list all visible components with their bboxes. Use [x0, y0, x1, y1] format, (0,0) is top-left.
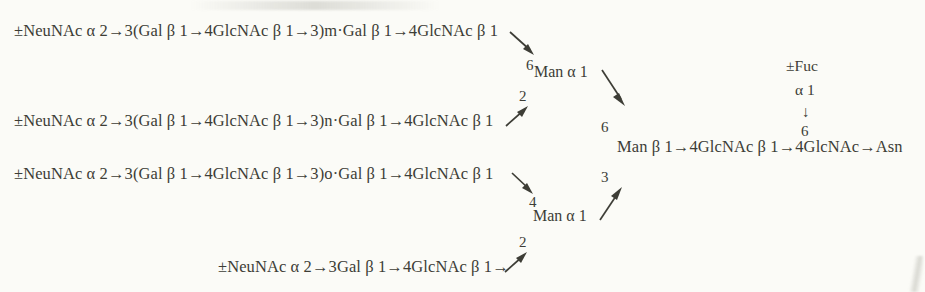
glycan-diagram: ±NeuNAc α 2→3(Gal β 1→4GlcNAc β 1→3)m·Ga…	[0, 0, 925, 292]
mannose-lower-label: Man α 1	[533, 208, 587, 224]
fucose-anomeric-label: α 1	[795, 82, 815, 98]
scan-artifact-top	[190, 1, 440, 10]
antenna-1-linkage-label: 6	[526, 58, 534, 73]
antenna-2-arrow	[504, 104, 544, 144]
antenna-chain-2: ±NeuNAc α 2→3(Gal β 1→4GlcNAc β 1→3)n·Ga…	[14, 113, 493, 130]
scan-artifact-corner	[907, 256, 923, 292]
mannose-upper-label: Man α 1	[534, 64, 588, 80]
fucose-position-label: 6	[801, 124, 809, 139]
antenna-4-arrow	[503, 250, 543, 290]
mannose-upper-linkage-label: 6	[601, 120, 609, 135]
mannose-lower-linkage-label: 3	[601, 170, 609, 185]
fucose-bond-arrow: ↓	[802, 104, 810, 120]
antenna-chain-1: ±NeuNAc α 2→3(Gal β 1→4GlcNAc β 1→3)m·Ga…	[14, 23, 498, 40]
antenna-chain-4: ±NeuNAc α 2→3Gal β 1→4GlcNAc β 1→	[218, 259, 509, 276]
mannose-lower-arrow	[598, 186, 643, 236]
antenna-4-linkage-label: 2	[519, 235, 527, 250]
antenna-chain-3: ±NeuNAc α 2→3(Gal β 1→4GlcNAc β 1→3)o·Ga…	[14, 166, 493, 183]
fucose-residue: ±Fuc	[786, 58, 818, 74]
antenna-2-linkage-label: 2	[519, 89, 527, 104]
mannose-upper-arrow	[600, 68, 645, 118]
core-chain: Man β 1→4GlcNAc β 1→4GlcNAc→Asn	[617, 139, 903, 156]
